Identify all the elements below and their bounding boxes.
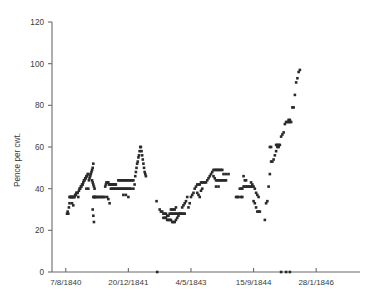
data-point — [217, 185, 220, 188]
x-tick-label: 20/12/1841 — [108, 278, 149, 287]
axes — [52, 22, 360, 272]
x-tick-label: 28/1/1846 — [298, 278, 334, 287]
data-point — [292, 106, 295, 109]
data-point — [266, 200, 269, 203]
data-point — [134, 175, 137, 178]
data-point — [87, 187, 90, 190]
data-point — [274, 154, 277, 157]
data-point — [295, 81, 298, 84]
data-point — [175, 206, 178, 209]
data-point — [242, 175, 245, 178]
data-point — [282, 131, 285, 134]
y-tick-label: 60 — [35, 143, 45, 152]
data-point — [237, 196, 240, 199]
data-point — [108, 202, 111, 205]
data-point — [138, 154, 141, 157]
data-point — [91, 167, 94, 170]
data-point — [130, 187, 133, 190]
y-tick-label: 100 — [30, 60, 44, 69]
data-point — [155, 200, 158, 203]
data-point — [201, 187, 204, 190]
data-point — [141, 158, 144, 161]
data-point — [91, 208, 94, 211]
data-point — [269, 173, 272, 176]
data-point — [259, 210, 262, 213]
data-point — [115, 183, 118, 186]
data-point — [156, 271, 159, 274]
data-point — [188, 202, 191, 205]
y-tick-label: 0 — [39, 268, 44, 277]
data-point — [254, 202, 257, 205]
data-point — [277, 144, 280, 147]
data-point — [183, 212, 186, 215]
data-point — [132, 187, 135, 190]
data-point — [198, 196, 201, 199]
data-point — [142, 162, 145, 165]
data-point — [227, 173, 230, 176]
y-tick-label: 120 — [30, 18, 44, 27]
data-point — [92, 162, 95, 165]
data-point — [215, 185, 218, 188]
data-point — [122, 194, 125, 197]
data-point — [93, 221, 96, 224]
data-point — [255, 206, 258, 209]
data-point — [225, 179, 228, 182]
data-point — [241, 196, 244, 199]
data-point — [133, 183, 136, 186]
data-point — [289, 119, 292, 122]
data-point — [67, 212, 70, 215]
data-point — [92, 214, 95, 217]
data-point — [103, 196, 106, 199]
data-point — [93, 187, 96, 190]
data-point — [270, 146, 273, 149]
x-tick-label: 7/8/1840 — [50, 278, 82, 287]
data-point — [280, 271, 283, 274]
data-point — [294, 94, 297, 97]
data-point — [272, 158, 275, 161]
data-point — [132, 179, 135, 182]
data-point — [143, 167, 146, 170]
data-point — [145, 175, 148, 178]
chart-canvas: 020406080100120 7/8/184020/12/18414/5/18… — [0, 0, 367, 304]
data-point — [225, 173, 228, 176]
y-tick-label: 40 — [35, 185, 45, 194]
price-scatter-chart: 020406080100120 7/8/184020/12/18414/5/18… — [0, 0, 367, 304]
data-point — [264, 219, 267, 222]
data-point — [178, 212, 181, 215]
data-point — [296, 77, 299, 80]
y-tick-label: 20 — [35, 226, 45, 235]
data-point — [72, 204, 75, 207]
data-point — [289, 271, 292, 274]
data-point — [254, 187, 257, 190]
data-points — [66, 69, 301, 274]
data-point — [140, 150, 143, 153]
y-tick-label: 80 — [35, 101, 45, 110]
data-point — [267, 185, 270, 188]
data-point — [192, 192, 195, 195]
data-point — [187, 206, 190, 209]
y-axis-ticks: 020406080100120 — [30, 18, 52, 277]
data-point — [77, 196, 80, 199]
data-point — [299, 69, 302, 72]
data-point — [141, 154, 144, 157]
data-point — [275, 150, 278, 153]
data-point — [135, 167, 138, 170]
data-point — [221, 169, 224, 172]
x-tick-label: 4/5/1843 — [175, 278, 207, 287]
data-point — [257, 196, 260, 199]
x-tick-label: 15/9/1844 — [236, 278, 272, 287]
data-point — [245, 179, 248, 182]
data-point — [186, 196, 189, 199]
data-point — [125, 194, 128, 197]
data-point — [285, 271, 288, 274]
data-point — [222, 173, 225, 176]
data-point — [185, 200, 188, 203]
data-point — [127, 196, 130, 199]
data-point — [107, 198, 110, 201]
x-axis-ticks: 7/8/184020/12/18414/5/184315/9/184428/1/… — [50, 268, 334, 287]
y-axis-title: Pence per cwt. — [13, 133, 22, 187]
data-point — [68, 206, 71, 209]
data-point — [135, 171, 138, 174]
data-point — [68, 202, 71, 205]
data-point — [140, 146, 143, 149]
